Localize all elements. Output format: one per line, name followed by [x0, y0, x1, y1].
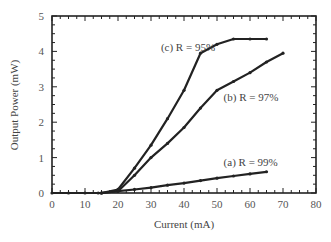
series-annotation: (a) R = 99% [224, 156, 278, 169]
data-point [265, 170, 268, 173]
y-tick-label: 1 [39, 152, 45, 164]
x-tick-label: 80 [311, 198, 323, 210]
data-point [232, 80, 235, 83]
data-point [67, 191, 70, 194]
data-point [133, 167, 136, 170]
data-point [248, 71, 251, 74]
data-point [182, 126, 185, 129]
data-point [232, 37, 235, 40]
x-tick-label: 20 [113, 198, 125, 210]
y-axis-title: Output Power (mW) [8, 59, 21, 150]
data-point [182, 89, 185, 92]
data-point [248, 172, 251, 175]
x-tick-label: 50 [212, 198, 224, 210]
y-tick-label: 5 [39, 10, 45, 22]
x-tick-label: 30 [146, 198, 158, 210]
data-point [149, 186, 152, 189]
x-tick-label: 0 [49, 198, 55, 210]
x-tick-label: 70 [278, 198, 290, 210]
data-point [50, 191, 53, 194]
data-point [116, 188, 119, 191]
data-point [166, 117, 169, 120]
data-point [149, 144, 152, 147]
data-point [166, 142, 169, 145]
data-point [133, 188, 136, 191]
series-annotation: (b) R = 97% [224, 91, 279, 104]
series-line-2 [102, 39, 267, 193]
x-tick-label: 60 [245, 198, 257, 210]
data-point [199, 106, 202, 109]
data-point [199, 179, 202, 182]
data-point [133, 174, 136, 177]
data-point [265, 60, 268, 63]
series-layer [50, 37, 284, 194]
data-point [182, 181, 185, 184]
series-annotation: (c) R = 95% [161, 41, 215, 54]
data-point [100, 191, 103, 194]
data-point [265, 37, 268, 40]
x-axis-title: Current (mA) [154, 218, 215, 231]
tick-labels: 01020304050607080012345 [39, 10, 323, 210]
data-point [232, 174, 235, 177]
data-point [215, 177, 218, 180]
x-tick-label: 40 [179, 198, 191, 210]
y-tick-label: 0 [39, 187, 45, 199]
data-point [215, 89, 218, 92]
data-point [149, 156, 152, 159]
x-tick-label: 10 [80, 198, 92, 210]
chart: 01020304050607080012345 (c) R = 95%(b) R… [0, 0, 331, 242]
y-tick-label: 4 [39, 45, 45, 57]
y-tick-label: 3 [39, 81, 45, 93]
data-point [166, 184, 169, 187]
data-point [248, 37, 251, 40]
annotations: (c) R = 95%(b) R = 97%(a) R = 99% [161, 41, 278, 169]
y-tick-label: 2 [39, 116, 45, 128]
data-point [281, 52, 284, 55]
data-point [97, 191, 100, 194]
data-point [83, 191, 86, 194]
data-point [215, 43, 218, 46]
